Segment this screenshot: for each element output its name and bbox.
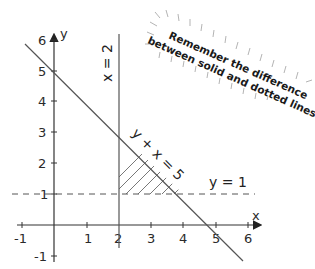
x-tick-label: 3 [147, 231, 155, 246]
x-tick-label: -1 [14, 231, 27, 246]
label-x-equals-2: x = 2 [99, 44, 115, 82]
y-axis-label: y [60, 26, 68, 41]
graph: -1 1 2 3 4 5 6 6 5 4 3 2 1 -1 x y x = 2 … [0, 0, 315, 269]
y-tick-label: -1 [34, 249, 47, 264]
x-tick-label: 2 [114, 231, 122, 246]
y-tick-label: 2 [38, 156, 46, 171]
x-tick-label: 1 [84, 231, 92, 246]
note-line-2: between solid and dotted lines. [146, 34, 315, 121]
y-tick-label: 6 [38, 33, 46, 48]
x-tick-label: 4 [179, 231, 187, 246]
label-y-plus-x-equals-5: y + x = 5 [129, 125, 188, 184]
line-y-plus-x-equals-5 [25, 44, 243, 261]
x-tick-label: 5 [212, 231, 220, 246]
x-tick-label: 6 [244, 231, 252, 246]
y-tick-label: 4 [38, 94, 46, 109]
label-y-equals-1: y = 1 [209, 174, 247, 190]
y-tick-label: 5 [38, 64, 46, 79]
note-line-1: Remember the difference [167, 29, 310, 101]
y-tick-label: 3 [38, 125, 46, 140]
x-axis-label: x [252, 208, 260, 223]
